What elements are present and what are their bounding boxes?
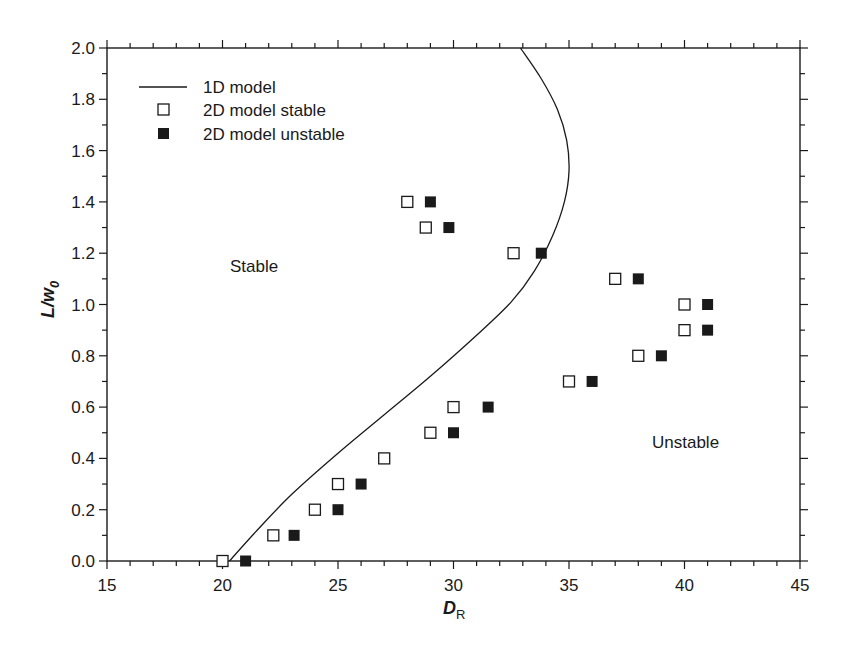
unstable-point — [536, 248, 547, 259]
stable-point — [448, 402, 459, 413]
stable-point — [309, 504, 320, 515]
legend-label-2d-stable: 2D model stable — [203, 101, 326, 120]
unstable-point — [587, 376, 598, 387]
x-tick-label: 25 — [329, 576, 348, 595]
x-axis-title-main: D — [443, 598, 456, 618]
unstable-point — [443, 222, 454, 233]
unstable-point — [333, 504, 344, 515]
x-axis-title: DR — [443, 598, 465, 622]
x-tick-label: 40 — [675, 576, 694, 595]
axis-ticks: 152025303540450.00.20.40.60.81.01.21.41.… — [71, 39, 809, 595]
legend-open-square-icon — [158, 104, 169, 115]
unstable-point — [656, 350, 667, 361]
data-points — [217, 196, 713, 566]
unstable-point — [289, 530, 300, 541]
legend-filled-square-icon — [158, 128, 169, 139]
stable-point — [679, 325, 690, 336]
legend-label-1d: 1D model — [203, 78, 276, 97]
stable-point — [217, 556, 228, 567]
stable-point — [633, 350, 644, 361]
y-axis-title-sub: 0 — [47, 280, 62, 288]
stable-point — [268, 530, 279, 541]
stable-region-label: Stable — [230, 257, 278, 276]
stable-point — [679, 299, 690, 310]
x-axis-title-sub: R — [456, 607, 465, 622]
y-tick-label: 0.0 — [71, 552, 95, 571]
x-tick-label: 15 — [98, 576, 117, 595]
stable-point — [508, 248, 519, 259]
y-tick-label: 1.6 — [71, 142, 95, 161]
x-tick-label: 45 — [791, 576, 810, 595]
unstable-point — [448, 427, 459, 438]
stable-point — [420, 222, 431, 233]
y-tick-label: 0.6 — [71, 398, 95, 417]
y-tick-label: 1.0 — [71, 296, 95, 315]
unstable-point — [702, 299, 713, 310]
unstable-point — [425, 196, 436, 207]
x-tick-label: 30 — [444, 576, 463, 595]
stable-point — [564, 376, 575, 387]
x-tick-label: 35 — [560, 576, 579, 595]
legend: 1D model 2D model stable 2D model unstab… — [139, 78, 345, 144]
y-tick-label: 0.4 — [71, 449, 95, 468]
unstable-point — [633, 273, 644, 284]
stability-chart: 152025303540450.00.20.40.60.81.01.21.41.… — [0, 0, 847, 657]
y-tick-label: 1.4 — [71, 193, 95, 212]
unstable-point — [483, 402, 494, 413]
x-tick-label: 20 — [213, 576, 232, 595]
stable-point — [610, 273, 621, 284]
stable-point — [333, 479, 344, 490]
unstable-point — [356, 479, 367, 490]
unstable-point — [240, 556, 251, 567]
y-tick-label: 2.0 — [71, 39, 95, 58]
y-tick-label: 1.8 — [71, 90, 95, 109]
stable-point — [425, 427, 436, 438]
y-axis-title-main: L/w — [38, 287, 58, 318]
y-tick-label: 0.8 — [71, 347, 95, 366]
stable-point — [379, 453, 390, 464]
y-axis-title: L/w0 — [38, 280, 62, 318]
unstable-point — [702, 325, 713, 336]
y-tick-label: 0.2 — [71, 501, 95, 520]
stable-point — [402, 196, 413, 207]
y-tick-label: 1.2 — [71, 244, 95, 263]
legend-label-2d-unstable: 2D model unstable — [203, 125, 345, 144]
unstable-region-label: Unstable — [652, 433, 719, 452]
